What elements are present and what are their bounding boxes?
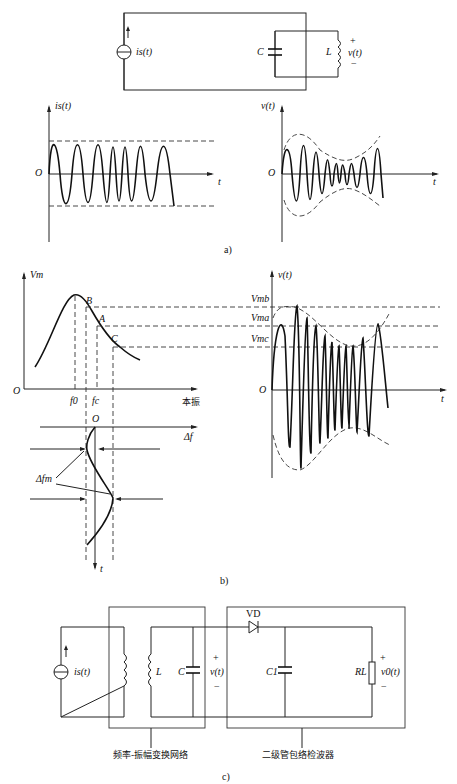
waveform-origin: O — [259, 385, 266, 395]
c-minus-1: − — [214, 682, 220, 692]
minus-sign: − — [351, 59, 357, 69]
load-label: RL — [355, 667, 367, 677]
plot-a-left-xlabel: t — [218, 177, 221, 187]
plot-a-right-ylabel: v(t) — [261, 101, 275, 111]
block1-label: 频率-振幅变换网络 — [113, 751, 188, 760]
voltage-label: v(t) — [348, 48, 362, 58]
circuit-c — [54, 607, 405, 748]
level-vma: Vma — [251, 313, 269, 323]
point-c-label: C — [111, 334, 118, 344]
c-capacitor-label: C — [178, 667, 185, 677]
plot-b-resonance — [22, 272, 440, 560]
waveform-ylabel: v(t) — [278, 270, 292, 280]
caption-a: a) — [224, 245, 232, 255]
c-inductor-label: L — [156, 667, 162, 677]
level-vmb: Vmb — [251, 294, 269, 304]
plot-a-left — [47, 105, 215, 242]
deviation-origin: O — [92, 414, 99, 424]
inductor-label: L — [326, 47, 332, 57]
figure-root: is(t) C L + v(t) − is(t) O t v(t) O t a)… — [0, 0, 457, 784]
plot-b-waveform — [270, 270, 447, 478]
c-source-label: is(t) — [74, 667, 90, 677]
deviation-annotation: Δfm — [36, 474, 52, 484]
caption-b: b) — [220, 576, 228, 586]
plot-b-deviation — [30, 425, 198, 570]
caption-c: c) — [222, 772, 230, 782]
output-label: v0(t) — [381, 667, 400, 677]
c-plus-2: + — [380, 653, 386, 663]
plot-a-right-origin: O — [268, 168, 275, 178]
resonance-ylabel: Vm — [30, 270, 43, 280]
point-b-label: B — [86, 296, 92, 306]
level-vmc: Vmc — [251, 334, 269, 344]
resonance-origin: O — [13, 386, 20, 396]
deviation-xlabel: Δf — [184, 432, 193, 442]
point-a-label: A — [99, 314, 105, 324]
plus-sign: + — [350, 36, 356, 46]
deviation-ylabel: t — [100, 564, 103, 574]
block2-label: 二级管包络检波器 — [262, 751, 334, 760]
c-minus-2: − — [381, 682, 387, 692]
tick-f0: f0 — [70, 396, 78, 406]
filter-cap-label: C1 — [266, 667, 278, 677]
plot-a-left-origin: O — [35, 168, 42, 178]
tick-fc: fc — [92, 396, 99, 406]
diode-label: VD — [246, 609, 260, 619]
plot-a-right — [280, 105, 439, 242]
c-voltage-label: v(t) — [210, 667, 224, 677]
source-current-label: is(t) — [136, 47, 152, 57]
plot-a-right-xlabel: t — [433, 177, 436, 187]
c-plus-1: + — [213, 653, 219, 663]
waveform-xlabel: t — [441, 394, 444, 404]
resonance-xlabel: 本振 — [182, 398, 200, 407]
plot-a-left-ylabel: is(t) — [55, 101, 71, 111]
capacitor-label: C — [257, 47, 264, 57]
